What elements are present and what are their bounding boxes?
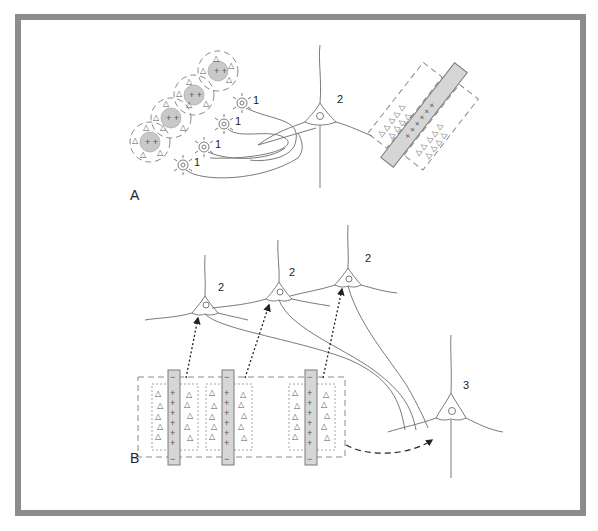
svg-text:△: △ — [157, 401, 164, 410]
strip-3: − ++++++ − △△△△△ △△△△△ — [289, 370, 335, 465]
svg-text:△: △ — [186, 390, 193, 399]
svg-text:△: △ — [187, 411, 194, 420]
svg-text:△: △ — [155, 389, 162, 398]
label-2: 2 — [365, 252, 371, 264]
svg-text:△: △ — [292, 412, 299, 421]
label-2: 2 — [337, 93, 343, 105]
svg-text:△: △ — [211, 401, 218, 410]
pyramidal-neuron-2-middle: 2 — [212, 240, 330, 308]
label-1: 1 — [253, 94, 259, 106]
svg-text:△: △ — [292, 388, 299, 397]
svg-text:△: △ — [324, 411, 331, 420]
svg-text:△: △ — [187, 433, 194, 442]
svg-text:△: △ — [140, 150, 147, 159]
svg-text:△: △ — [211, 422, 218, 431]
panel-b: 2 2 2 — [130, 225, 503, 478]
arrow-to-neuron-3 — [346, 440, 432, 453]
svg-text:△: △ — [213, 54, 220, 63]
svg-text:+: + — [224, 438, 229, 448]
label-1: 1 — [235, 115, 241, 127]
svg-text:△: △ — [143, 123, 150, 132]
svg-text:△: △ — [176, 89, 183, 98]
svg-text:−: − — [224, 372, 229, 382]
panel-label-a: A — [130, 187, 140, 203]
svg-text:△: △ — [186, 100, 193, 109]
svg-text:△: △ — [324, 433, 331, 442]
star-neuron-1d: 1 — [174, 155, 200, 175]
svg-text:−: − — [224, 454, 229, 464]
svg-text:△: △ — [292, 432, 299, 441]
svg-text:△: △ — [321, 422, 328, 431]
panel-label-b: B — [130, 450, 139, 466]
svg-text:+: + — [170, 418, 175, 428]
svg-text:−: − — [307, 372, 312, 382]
pyramidal-neuron-2-right: 2 — [290, 225, 397, 296]
svg-text:△: △ — [163, 99, 170, 108]
cluster-1: + + △△△△ — [198, 51, 238, 91]
svg-text:+: + — [170, 428, 175, 438]
svg-text:+: + — [170, 408, 175, 418]
cluster-3: + + △△△△ — [151, 98, 191, 138]
svg-text:△: △ — [294, 422, 301, 431]
svg-text:+: + — [307, 388, 312, 398]
pyramidal-neuron-2: 2 — [258, 45, 372, 188]
svg-text:+ +: + + — [145, 137, 158, 147]
svg-text:−: − — [307, 454, 312, 464]
panel-a: + + △△△△ + + △△△△ + + △△△△ + + △△△△ — [130, 45, 487, 203]
svg-text:+: + — [307, 438, 312, 448]
svg-text:△: △ — [209, 412, 216, 421]
label-1: 1 — [215, 138, 221, 150]
svg-text:△: △ — [155, 412, 162, 421]
label-2: 2 — [289, 266, 295, 278]
strip-1: − ++++++ − △△△△△ △△△△△ — [152, 370, 198, 465]
svg-text:△: △ — [209, 388, 216, 397]
svg-text:△: △ — [153, 113, 160, 122]
svg-text:+: + — [170, 398, 175, 408]
diagram-canvas: + + △△△△ + + △△△△ + + △△△△ + + △△△△ — [0, 0, 598, 531]
svg-text:△: △ — [157, 148, 164, 157]
svg-text:+ +: + + — [166, 113, 179, 123]
label-3: 3 — [463, 379, 469, 391]
svg-text:+: + — [307, 398, 312, 408]
svg-text:+: + — [224, 398, 229, 408]
star-neuron-1a: 1 — [233, 93, 259, 113]
svg-text:−: − — [170, 454, 175, 464]
svg-text:+: + — [307, 418, 312, 428]
svg-text:△: △ — [184, 400, 191, 409]
cluster-2: + + △△△△ — [174, 75, 214, 115]
svg-text:+: + — [170, 438, 175, 448]
svg-text:△: △ — [209, 432, 216, 441]
svg-text:+: + — [224, 418, 229, 428]
svg-text:+: + — [307, 408, 312, 418]
svg-text:△: △ — [200, 66, 207, 75]
svg-text:△: △ — [294, 401, 301, 410]
svg-text:+: + — [307, 428, 312, 438]
svg-text:+: + — [224, 388, 229, 398]
label-1: 1 — [194, 156, 200, 168]
svg-text:△: △ — [241, 411, 248, 420]
svg-text:△: △ — [240, 390, 247, 399]
strip-2: − ++++++ − △△△△△ △△△△△ — [206, 370, 252, 465]
svg-text:+: + — [224, 408, 229, 418]
star-neuron-1c: 1 — [195, 137, 221, 157]
arrow-up-1 — [186, 318, 198, 378]
svg-text:△: △ — [323, 390, 330, 399]
svg-text:△: △ — [203, 99, 210, 108]
svg-text:−: − — [170, 372, 175, 382]
svg-text:△: △ — [321, 400, 328, 409]
pyramidal-neuron-3: 3 — [388, 335, 503, 478]
label-2: 2 — [218, 281, 224, 293]
diagonal-strip: + + + + + + △ △ △ △ △ △ △ △ △ △ △ △ △ △ … — [361, 47, 487, 182]
axons-a — [186, 108, 316, 178]
svg-text:△: △ — [226, 75, 233, 84]
svg-text:△: △ — [132, 136, 139, 145]
svg-text:△: △ — [157, 422, 164, 431]
svg-text:△: △ — [184, 422, 191, 431]
pyramidal-neuron-2-left: 2 — [145, 255, 248, 320]
svg-text:△: △ — [238, 400, 245, 409]
svg-text:+: + — [224, 428, 229, 438]
svg-text:△: △ — [155, 432, 162, 441]
svg-text:+: + — [170, 388, 175, 398]
svg-text:△: △ — [228, 61, 235, 70]
svg-text:+ +: + + — [189, 90, 202, 100]
